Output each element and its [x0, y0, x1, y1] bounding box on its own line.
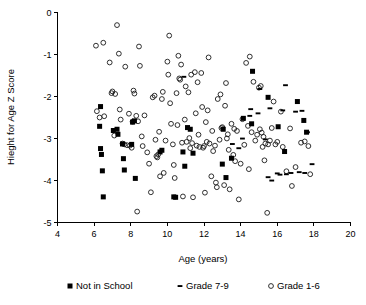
- data-point: [120, 141, 125, 146]
- data-point: [178, 77, 183, 82]
- data-point: [98, 146, 103, 151]
- data-point: [107, 60, 112, 65]
- data-point: [306, 144, 311, 149]
- data-point: [310, 163, 315, 165]
- data-point: [213, 143, 218, 148]
- data-point: [139, 134, 144, 139]
- data-point: [137, 44, 142, 49]
- data-point: [179, 62, 184, 67]
- data-point: [188, 146, 193, 151]
- data-point: [188, 127, 193, 132]
- tick-label-layer: 0-1-2-3-4-5468101214161820: [43, 8, 355, 239]
- data-point: [302, 172, 307, 174]
- data-point: [217, 137, 222, 142]
- data-point: [181, 194, 186, 199]
- x-tick-label-5: 14: [236, 229, 246, 239]
- legend-item-2: Grade 1-6: [269, 280, 320, 291]
- data-point: [115, 23, 120, 28]
- data-point: [241, 116, 246, 121]
- data-point: [214, 185, 219, 190]
- data-point: [256, 112, 261, 114]
- data-point: [115, 127, 120, 132]
- data-point: [182, 117, 187, 122]
- x-tick-label-8: 20: [345, 229, 355, 239]
- data-point: [276, 124, 281, 129]
- data-point: [166, 72, 171, 77]
- data-point: [121, 156, 126, 161]
- data-point: [226, 147, 231, 152]
- data-point: [101, 40, 106, 45]
- data-point: [173, 195, 178, 200]
- data-point: [301, 118, 306, 123]
- data-point: [155, 155, 160, 160]
- data-point: [115, 132, 120, 137]
- data-point: [249, 121, 254, 126]
- data-point: [122, 168, 127, 173]
- data-point: [293, 165, 298, 170]
- data-point: [266, 176, 271, 178]
- data-point: [229, 156, 234, 161]
- legend-label-2: Grade 1-6: [277, 280, 320, 291]
- data-point: [251, 79, 256, 84]
- data-point: [174, 91, 179, 96]
- data-point: [221, 127, 226, 132]
- data-point: [249, 130, 254, 135]
- data-point: [140, 144, 145, 149]
- data-point: [135, 209, 140, 214]
- data-point: [196, 132, 201, 137]
- data-point: [203, 120, 208, 125]
- data-point: [211, 149, 216, 154]
- data-point: [123, 64, 128, 69]
- data-point: [242, 142, 247, 147]
- data-point: [191, 195, 196, 200]
- x-tick-label-3: 10: [162, 229, 172, 239]
- data-point: [180, 149, 185, 154]
- data-point: [129, 142, 134, 147]
- data-point: [257, 88, 262, 90]
- data-point: [246, 167, 251, 172]
- data-point: [308, 172, 313, 177]
- dash-legend-icon: [178, 285, 183, 287]
- x-tick-label-7: 18: [309, 229, 319, 239]
- data-point: [97, 115, 102, 120]
- series-not-in-school: [97, 69, 309, 200]
- data-point: [295, 99, 300, 104]
- data-point: [236, 147, 241, 149]
- data-point: [289, 172, 294, 174]
- data-point: [132, 91, 137, 96]
- data-point: [190, 141, 195, 146]
- data-point: [205, 108, 210, 113]
- data-point: [230, 143, 235, 145]
- data-point: [220, 162, 225, 167]
- data-point: [195, 80, 200, 85]
- data-point: [100, 168, 105, 173]
- data-point: [153, 137, 158, 142]
- data-point: [180, 140, 185, 145]
- y-tick-label-3: -3: [43, 134, 51, 144]
- data-point: [94, 43, 99, 48]
- data-point: [262, 158, 267, 163]
- data-point: [132, 118, 137, 123]
- data-point: [268, 107, 273, 109]
- data-point: [168, 101, 173, 106]
- data-point: [200, 105, 205, 110]
- data-point: [176, 53, 181, 58]
- data-point: [224, 81, 229, 86]
- y-tick-label-0: 0: [46, 8, 51, 18]
- data-point: [283, 84, 288, 86]
- data-point: [293, 111, 298, 113]
- data-point: [215, 97, 220, 102]
- data-point: [131, 88, 136, 93]
- data-point: [248, 108, 253, 110]
- data-point: [161, 171, 166, 176]
- data-point: [247, 54, 252, 59]
- data-point: [284, 169, 289, 174]
- data-point: [280, 145, 285, 150]
- data-point: [214, 180, 219, 185]
- data-point: [265, 210, 270, 215]
- data-point: [223, 103, 228, 108]
- data-point: [203, 190, 208, 195]
- data-point: [127, 111, 132, 116]
- data-point: [183, 84, 188, 89]
- x-tick-label-0: 4: [55, 229, 60, 239]
